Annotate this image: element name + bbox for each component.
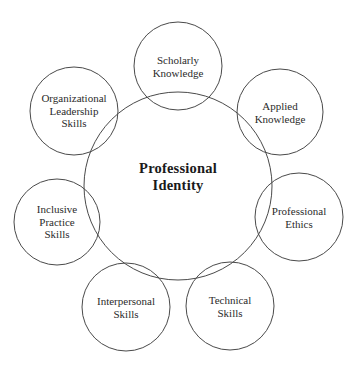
circle-applied-knowledge [237,69,323,155]
circle-technical-skills [186,262,274,350]
professional-identity-diagram: Professional Identity Scholarly Knowledg… [0,0,356,367]
circle-interpersonal-skills [82,263,170,351]
circle-scholarly-knowledge [134,22,222,110]
circle-organizational-leadership-skills [30,67,118,155]
circle-professional-ethics [255,173,343,261]
center-label-professional-identity: Professional Identity [139,160,217,194]
circle-inclusive-practice-skills [14,179,100,265]
